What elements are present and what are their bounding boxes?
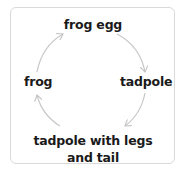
stage-tadpole-with-legs-and-tail: tadpole with legs and tail — [0, 132, 186, 166]
stage-frog: frog — [24, 74, 52, 89]
arrow-tadpole-to-legs — [125, 93, 145, 126]
stage-tadpole-with-legs-line2: and tail — [0, 149, 186, 166]
stage-tadpole: tadpole — [120, 74, 172, 89]
arrow-egg-to-tadpole — [117, 34, 145, 72]
arrow-legs-to-frog — [37, 95, 60, 126]
stage-tadpole-with-legs-line1: tadpole with legs — [0, 132, 186, 149]
stage-frog-egg: frog egg — [0, 17, 186, 32]
arrow-frog-to-egg — [37, 34, 63, 72]
